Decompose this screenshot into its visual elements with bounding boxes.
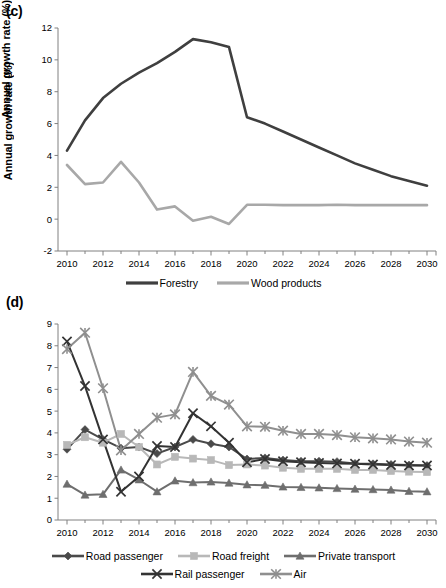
svg-text:2028: 2028 [380, 258, 401, 269]
svg-text:12: 12 [41, 22, 52, 33]
svg-text:2028: 2028 [380, 527, 401, 538]
svg-text:2020: 2020 [236, 258, 257, 269]
svg-text:2010: 2010 [56, 527, 77, 538]
svg-text:0: 0 [47, 514, 52, 525]
panel-d-legend: Road passengerRoad freightPrivate transp… [0, 549, 446, 581]
panel-d-plot-area: 0123456789201020122014201620182020202220… [30, 318, 442, 546]
svg-text:2026: 2026 [344, 527, 365, 538]
panel-c-plot-area: -202468101220102012201420162018202020222… [30, 22, 442, 277]
svg-text:2016: 2016 [164, 258, 185, 269]
svg-text:4: 4 [47, 427, 52, 438]
svg-text:-2: -2 [44, 245, 52, 256]
legend-item-road-freight[interactable]: Road freight [177, 549, 269, 563]
svg-text:9: 9 [47, 318, 52, 329]
svg-text:6: 6 [47, 384, 52, 395]
svg-text:2014: 2014 [128, 258, 149, 269]
panel-d-y-axis-label: Annual growth rate (%) [0, 0, 12, 118]
svg-text:2018: 2018 [200, 258, 221, 269]
svg-text:0: 0 [47, 214, 52, 225]
svg-text:2014: 2014 [128, 527, 149, 538]
svg-text:7: 7 [47, 362, 52, 373]
svg-text:2030: 2030 [416, 527, 437, 538]
svg-text:2030: 2030 [416, 258, 437, 269]
legend-marker-icon [140, 567, 174, 581]
panel-d-label: (d) [6, 294, 23, 310]
legend-label: Air [294, 569, 307, 580]
svg-text:8: 8 [47, 86, 52, 97]
svg-text:2010: 2010 [56, 258, 77, 269]
svg-text:5: 5 [47, 406, 52, 417]
legend-item-forestry[interactable]: Forestry [125, 276, 199, 290]
panel-c: (c) Annual growth rate (%) -202468101220… [0, 0, 446, 300]
legend-marker-icon [177, 549, 211, 563]
legend-label: Road freight [212, 551, 269, 562]
svg-text:10: 10 [41, 54, 52, 65]
legend-marker-icon [259, 567, 293, 581]
legend-item-wood-products[interactable]: Wood products [216, 276, 321, 290]
svg-text:2020: 2020 [236, 527, 257, 538]
svg-text:3: 3 [47, 449, 52, 460]
svg-text:2: 2 [47, 182, 52, 193]
legend-label: Road passenger [86, 551, 163, 562]
legend-label: Forestry [160, 278, 199, 289]
legend-marker-icon [283, 549, 317, 563]
legend-item-rail-passenger[interactable]: Rail passenger [140, 567, 245, 581]
svg-text:2018: 2018 [200, 527, 221, 538]
svg-text:2: 2 [47, 471, 52, 482]
svg-text:8: 8 [47, 340, 52, 351]
panel-c-legend: ForestryWood products [0, 276, 446, 290]
svg-text:2022: 2022 [272, 527, 293, 538]
svg-text:2012: 2012 [92, 527, 113, 538]
svg-text:6: 6 [47, 118, 52, 129]
legend-label: Wood products [251, 278, 321, 289]
legend-marker-icon [125, 276, 159, 290]
legend-item-air[interactable]: Air [259, 567, 307, 581]
svg-text:4: 4 [47, 150, 52, 161]
legend-label: Private transport [318, 551, 395, 562]
legend-item-road-passenger[interactable]: Road passenger [51, 549, 163, 563]
svg-text:2016: 2016 [164, 527, 185, 538]
svg-text:2024: 2024 [308, 258, 329, 269]
legend-marker-icon [51, 549, 85, 563]
legend-label: Rail passenger [175, 569, 245, 580]
svg-text:1: 1 [47, 493, 52, 504]
legend-item-private-transport[interactable]: Private transport [283, 549, 395, 563]
svg-text:2022: 2022 [272, 258, 293, 269]
legend-marker-icon [216, 276, 250, 290]
svg-text:2012: 2012 [92, 258, 113, 269]
svg-text:2024: 2024 [308, 527, 329, 538]
svg-text:2026: 2026 [344, 258, 365, 269]
